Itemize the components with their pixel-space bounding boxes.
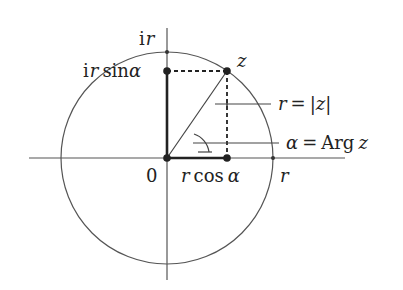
point-imag-projection xyxy=(163,67,171,75)
label-argument: α=Argz xyxy=(286,132,368,153)
label-r-real: r xyxy=(280,165,290,186)
label-modulus: r=|z| xyxy=(278,93,331,115)
radius-vector xyxy=(167,71,227,158)
label-ir-sin-alpha: irsinα xyxy=(83,60,141,81)
point-z xyxy=(223,67,231,75)
label-z: z xyxy=(236,50,247,71)
tick-ir xyxy=(165,50,169,54)
point-real-projection xyxy=(223,154,231,162)
label-r-cos-alpha: rcosα xyxy=(181,165,240,186)
label-origin: 0 xyxy=(146,165,157,186)
label-ir: ir xyxy=(139,28,156,49)
point-origin xyxy=(163,154,171,162)
complex-plane-diagram: ir irsinα z r=|z| α=Argz 0 rcosα r xyxy=(0,0,403,290)
tick-r xyxy=(271,156,275,160)
